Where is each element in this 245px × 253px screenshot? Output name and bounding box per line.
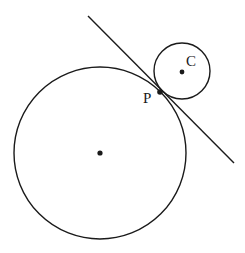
- label-c: C: [186, 53, 196, 69]
- label-p: P: [143, 90, 151, 106]
- large-circle-center-dot: [97, 150, 102, 155]
- small-circle-center-dot: [180, 70, 185, 75]
- tangent-point-dot: [157, 89, 163, 95]
- tangent-circles-diagram: C P: [0, 0, 245, 253]
